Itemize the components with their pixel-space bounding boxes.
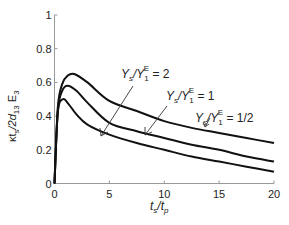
y-tick-label: 0.4 bbox=[36, 110, 51, 122]
x-tick-label: 5 bbox=[106, 188, 112, 200]
y-tick-label: 0.2 bbox=[36, 144, 51, 156]
tick-labels: 0510152000.20.40.60.81 bbox=[36, 9, 280, 200]
annotation-ratio-half: Ys/Y1E = 1/2 bbox=[195, 108, 254, 127]
y-tick-label: 0.8 bbox=[36, 43, 51, 55]
x-tick-label: 15 bbox=[213, 188, 225, 200]
x-tick-label: 0 bbox=[51, 188, 57, 200]
axis-ticks bbox=[55, 15, 275, 184]
data-curves bbox=[55, 74, 275, 184]
y-axis-label: κts/2d13 E3 bbox=[6, 90, 21, 142]
annotation-ratio-2: Ys/Y1E = 2 bbox=[100, 64, 170, 136]
y-tick-label: 0.6 bbox=[36, 76, 51, 88]
y-tick-label: 0 bbox=[45, 178, 51, 190]
y-tick-label: 1 bbox=[45, 9, 51, 21]
svg-text:Ys/Y1E = 1: Ys/Y1E = 1 bbox=[166, 86, 215, 105]
svg-text:Ys/Y1E = 2: Ys/Y1E = 2 bbox=[121, 64, 170, 83]
curve-series-2 bbox=[55, 86, 275, 184]
curve-series-1 bbox=[55, 74, 275, 184]
chart: 0510152000.20.40.60.81 Ys/Y1E = 2 Ys/Y1E… bbox=[0, 0, 289, 225]
x-tick-label: 20 bbox=[268, 188, 280, 200]
annotation-ratio-1: Ys/Y1E = 1 bbox=[145, 86, 215, 135]
x-axis-label: ts/tp bbox=[150, 199, 169, 215]
